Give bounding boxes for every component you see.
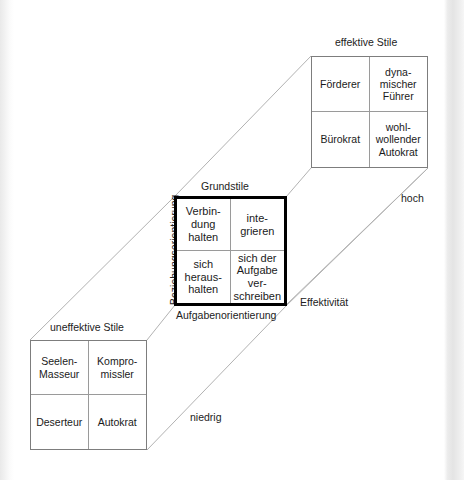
grid-ineffective-styles: Seelen- Masseur Kompro- missler Deserteu…: [30, 340, 147, 450]
axis-label-task-orientation: Aufgabenorientierung: [176, 309, 276, 321]
cell-kompromissler: Kompro- missler: [89, 341, 147, 395]
connector-base-to-effective-topleft: [175, 56, 311, 196]
cell-autokrat: Autokrat: [89, 395, 147, 449]
connector-ineffective-to-base-topleft: [30, 196, 175, 340]
grid-base-styles: Verbin- dung halten inte- grieren sich h…: [174, 196, 287, 306]
cell-sich-der-aufgabe-verschreiben: sich der Aufgabe ver- schreiben: [231, 251, 285, 303]
axis-label-effectivity: Effektivität: [300, 296, 348, 308]
cell-sich-heraushalten: sich heraus- halten: [177, 251, 231, 303]
title-effective-styles: effektive Stile: [335, 36, 397, 48]
axis-label-effectivity-high: hoch: [401, 192, 424, 204]
cell-dynamischer-fuehrer: dyna- mischer Führer: [370, 57, 428, 112]
axis-label-effectivity-low: niedrig: [190, 411, 222, 423]
grid-effective-styles: Förderer dyna- mischer Führer Bürokrat w…: [311, 56, 428, 168]
title-base-styles: Grundstile: [201, 180, 249, 192]
cell-seelen-masseur: Seelen- Masseur: [31, 341, 89, 395]
cell-integrieren: inte- grieren: [231, 199, 285, 251]
connector-effectivity-axis-high: [287, 168, 428, 305]
connector-base-to-effective-bottomleft: [286, 168, 311, 197]
cell-wohlwollender-autokrat: wohl- wollender Autokrat: [370, 112, 428, 167]
cell-deserteur: Deserteur: [31, 395, 89, 449]
cell-foerderer: Förderer: [312, 57, 370, 112]
cell-buerokrat: Bürokrat: [312, 112, 370, 167]
diagram-canvas: effektive Stile Förderer dyna- mischer F…: [0, 0, 464, 480]
cell-verbindung-halten: Verbin- dung halten: [177, 199, 231, 251]
title-ineffective-styles: uneffektive Stile: [50, 321, 124, 333]
connector-ineffective-to-base-right: [147, 305, 175, 340]
connector-effectivity-axis-low: [147, 305, 287, 450]
